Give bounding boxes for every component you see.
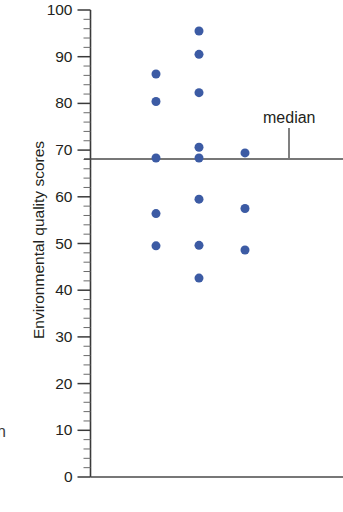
dot-plot-svg: 0102030405060708090100 median Environmen… [0,0,343,512]
y-axis-tick-label: 40 [55,281,73,298]
y-axis-tick-label: 30 [55,328,73,345]
data-point [195,50,204,59]
data-point [152,69,161,78]
data-point [241,246,250,255]
y-axis-tick-label: 0 [64,468,73,485]
y-axis-tick-label: 90 [55,48,73,65]
median-label: median [263,109,315,126]
cropped-edge-glyph: n [0,423,6,440]
y-axis-tick-label: 60 [55,188,73,205]
data-point [195,274,204,283]
plot-background [0,0,343,512]
data-point [195,27,204,36]
data-point [152,241,161,250]
y-axis-tick-label: 100 [47,1,73,18]
y-axis-tick-label: 70 [55,141,73,158]
y-axis-tick-label: 10 [55,421,73,438]
data-point [152,97,161,106]
data-point [241,204,250,213]
data-point [241,148,250,157]
y-axis-title: Environmental quality scores [30,141,47,339]
data-point [195,154,204,163]
data-point [195,241,204,250]
y-axis-tick-label: 20 [55,375,73,392]
data-point [195,195,204,204]
data-point [152,209,161,218]
y-axis-tick-label: 80 [55,94,73,111]
data-point [195,143,204,152]
data-point [152,154,161,163]
data-point [195,88,204,97]
y-axis-tick-label: 50 [55,235,73,252]
chart-container: 0102030405060708090100 median Environmen… [0,0,343,512]
